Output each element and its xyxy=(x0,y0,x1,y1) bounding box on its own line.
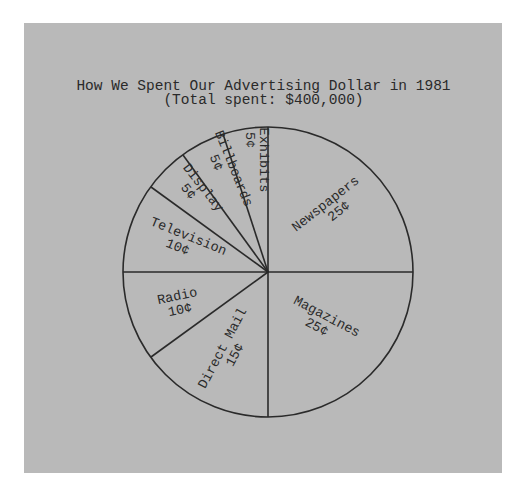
slice-direct-mail: Direct Mail 15¢ xyxy=(195,305,262,397)
slice-label: Exhibits xyxy=(256,128,271,193)
slice-magazines: Magazines 25¢ xyxy=(284,293,362,353)
slice-value: 5¢ xyxy=(242,132,257,148)
slice-television: Television 10¢ xyxy=(143,215,229,272)
slice-radio: Radio 10¢ xyxy=(156,285,202,322)
slice-label: Newspapers xyxy=(289,173,362,235)
pie-chart: Newspapers 25¢ Magazines 25¢ Direct Mail… xyxy=(0,0,527,496)
slice-newspapers: Newspapers 25¢ xyxy=(289,173,371,246)
